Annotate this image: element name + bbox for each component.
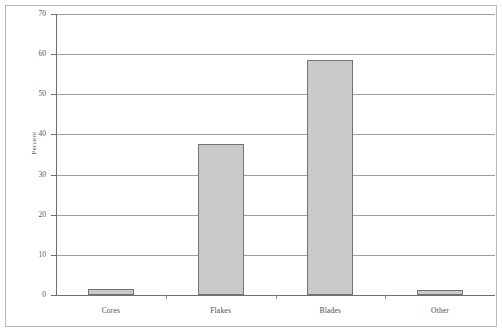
gridline-20	[56, 215, 495, 216]
y-tick-label-10: 10	[0, 251, 46, 259]
gridline-70	[56, 14, 495, 15]
y-tick-label-20: 20	[0, 211, 46, 219]
x-tick-mark-2	[276, 295, 277, 299]
y-tick-label-40: 40	[0, 130, 46, 138]
y-tick-mark-40	[51, 134, 56, 135]
y-tick-label-50: 50	[0, 90, 46, 98]
y-tick-mark-20	[51, 215, 56, 216]
y-tick-mark-50	[51, 94, 56, 95]
gridline-50	[56, 94, 495, 95]
y-tick-label-60: 60	[0, 50, 46, 58]
y-axis-title: Percent	[30, 103, 38, 183]
y-tick-label-30: 30	[0, 171, 46, 179]
category-label-flakes: Flakes	[181, 306, 261, 315]
y-tick-mark-60	[51, 54, 56, 55]
x-tick-mark-3	[385, 295, 386, 299]
gridline-40	[56, 134, 495, 135]
gridline-30	[56, 175, 495, 176]
bar-flakes[interactable]	[198, 144, 244, 295]
gridline-60	[56, 54, 495, 55]
category-label-cores: Cores	[71, 306, 151, 315]
y-tick-label-70: 70	[0, 10, 46, 18]
category-label-blades: Blades	[290, 306, 370, 315]
x-tick-mark-1	[166, 295, 167, 299]
y-tick-label-0: 0	[0, 291, 46, 299]
gridline-10	[56, 255, 495, 256]
y-axis-line	[56, 14, 57, 295]
y-tick-mark-10	[51, 255, 56, 256]
y-tick-mark-0	[51, 295, 56, 296]
plot-area	[56, 14, 495, 295]
category-label-other: Other	[400, 306, 480, 315]
bar-blades[interactable]	[307, 60, 353, 295]
y-tick-mark-70	[51, 14, 56, 15]
y-tick-mark-30	[51, 175, 56, 176]
bar-chart-figure: 010203040506070 Percent CoresFlakesBlade…	[0, 0, 502, 332]
